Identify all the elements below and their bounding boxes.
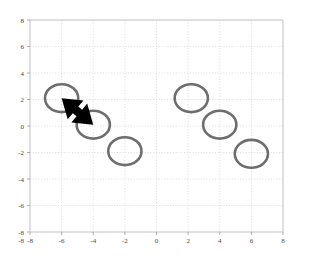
y-tick-label: -2 — [18, 149, 24, 157]
x-tick-label: -4 — [90, 237, 96, 245]
y-tick-label: -8 — [18, 229, 24, 237]
x-tick-label: -8 — [27, 237, 33, 245]
x-tick-label: -6 — [59, 237, 65, 245]
y-tick-labels: -8-6-4-202468 — [18, 17, 24, 237]
y-tick-label: 4 — [21, 70, 25, 78]
scatter-plot-canvas: -8-6-4-202468-8 -8-6-4-202468 — [0, 0, 310, 261]
y-tick-label: 0 — [21, 123, 25, 131]
x-tick-label: 2 — [186, 237, 190, 245]
y-tick-label: 2 — [21, 96, 25, 104]
y-tick-label: -6 — [18, 202, 24, 210]
x-tick-label: 8 — [281, 237, 285, 245]
y-tick-label: 8 — [21, 17, 25, 25]
x-tick-label: 4 — [218, 237, 222, 245]
x-tick-label: 6 — [250, 237, 254, 245]
y-tick-label: 6 — [21, 43, 25, 51]
x-tick-label: -2 — [122, 237, 128, 245]
x-tick-labels: -8-6-4-202468-8 — [18, 237, 285, 245]
chart-figure: -8-6-4-202468-8 -8-6-4-202468 — [0, 0, 310, 261]
axis-corner-label: -8 — [18, 237, 24, 245]
y-tick-label: -4 — [18, 176, 24, 184]
x-tick-label: 0 — [155, 237, 159, 245]
